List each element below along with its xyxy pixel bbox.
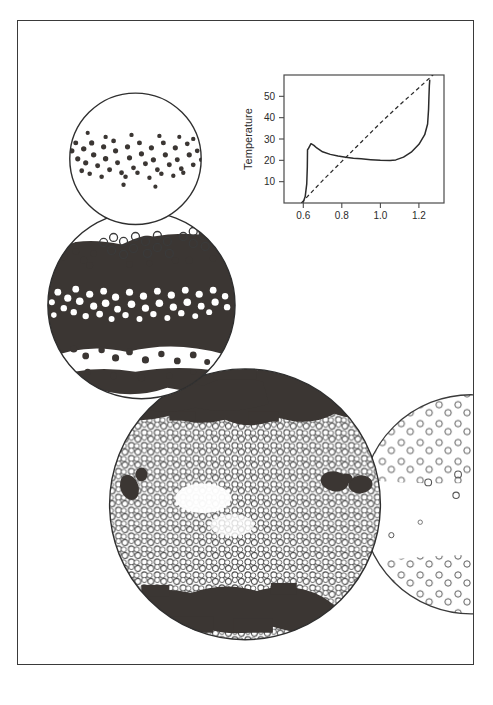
inset-chart: 10 20 30 40 50 0.6 0.8 1.0 1.2 Temperatu…: [239, 65, 453, 225]
x-tick-label: 0.8: [335, 210, 349, 221]
x-axis-ticks: [303, 203, 419, 208]
y-axis-tick-labels: 10 20 30 40 50: [264, 91, 276, 187]
y-tick-label: 20: [264, 155, 276, 166]
y-tick-label: 50: [264, 91, 276, 102]
y-tick-label: 30: [264, 134, 276, 145]
figure-frame: 10 20 30 40 50 0.6 0.8 1.0 1.2 Temperatu…: [17, 20, 474, 665]
x-axis-tick-labels: 0.6 0.8 1.0 1.2: [296, 210, 426, 221]
y-axis-title: Temperature: [242, 108, 254, 170]
x-tick-label: 1.2: [412, 210, 426, 221]
chart-plot-frame: [284, 75, 444, 203]
y-tick-label: 10: [264, 176, 276, 187]
planet-low-luminosity: [69, 93, 203, 224]
x-tick-label: 1.0: [373, 210, 387, 221]
planet-mid-luminosity: [38, 212, 249, 399]
y-axis-ticks: [279, 96, 284, 181]
y-tick-label: 40: [264, 112, 276, 123]
x-tick-label: 0.6: [296, 210, 310, 221]
planet-high-luminosity: [108, 362, 384, 640]
